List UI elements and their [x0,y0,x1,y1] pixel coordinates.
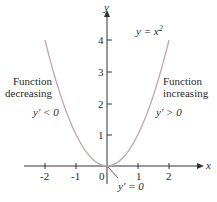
y-tick-label: 4 [98,34,104,46]
y-axis-label: y [103,1,109,13]
y-tick-label: 2 [98,98,104,110]
chart: -2 -1 0 1 2 1 2 3 4 x y y = x2 Function … [0,0,217,202]
x-tick-label: 0 [99,170,105,182]
x-axis-label: x [205,159,211,171]
left-condition: y′ < 0 [32,106,59,118]
right-condition: y′ > 0 [155,106,182,118]
left-title-line1: Function [13,75,53,87]
y-tick-label: 3 [98,66,104,78]
left-title-line2: decreasing [5,87,53,99]
y-ticks [107,40,112,135]
x-axis-arrow-icon [197,163,204,169]
curve-label: y = x2 [135,24,163,37]
x-tick-label: -1 [71,170,80,182]
vertex-pointer [108,167,118,178]
right-title-line2: increasing [163,87,209,99]
vertex-condition: y′ = 0 [117,180,144,192]
x-tick-label: -2 [40,170,49,182]
y-tick-label: 1 [98,129,104,141]
right-title-line1: Function [163,75,203,87]
x-tick-label: 2 [166,170,172,182]
